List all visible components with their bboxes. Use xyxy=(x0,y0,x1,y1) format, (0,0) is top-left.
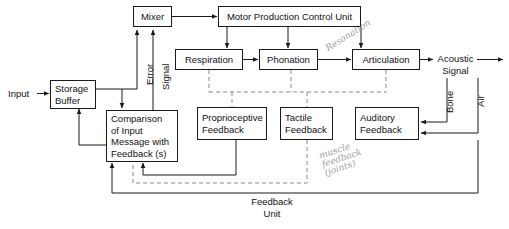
node-phonation[interactable]: Phonation xyxy=(259,49,318,70)
label-error: Error xyxy=(144,64,155,85)
node-storage-buffer[interactable]: Storage Buffer xyxy=(50,80,96,109)
label-feedback-unit: Feedback Unit xyxy=(246,196,298,219)
edge-storage-to-mixer xyxy=(96,30,137,89)
node-articulation-label: Articulation xyxy=(363,54,410,66)
node-mixer[interactable]: Mixer xyxy=(133,6,172,27)
edge-comparison-to-storage xyxy=(79,109,106,145)
label-bone: Bone xyxy=(444,91,455,113)
label-air: Air xyxy=(475,95,486,107)
node-comparison-label: Comparison of Input Message with Feedbac… xyxy=(111,113,169,159)
node-motor-production-control-unit-label: Motor Production Control Unit xyxy=(227,11,352,23)
node-storage-buffer-label: Storage Buffer xyxy=(55,83,88,106)
diagram-canvas: Mixer Motor Production Control Unit Resp… xyxy=(0,0,509,229)
label-acoustic-signal: Acoustic Signal xyxy=(433,53,478,76)
node-respiration-label: Respiration xyxy=(185,54,233,66)
node-mixer-label: Mixer xyxy=(141,11,164,23)
node-tactile-feedback[interactable]: Tactile Feedback xyxy=(280,107,333,140)
node-tactile-feedback-label: Tactile Feedback xyxy=(285,112,327,135)
label-signal: Signal xyxy=(160,64,171,90)
node-phonation-label: Phonation xyxy=(267,54,310,66)
node-motor-production-control-unit[interactable]: Motor Production Control Unit xyxy=(218,6,361,27)
node-articulation[interactable]: Articulation xyxy=(352,49,420,70)
node-proprioceptive-feedback[interactable]: Proprioceptive Feedback xyxy=(197,107,267,140)
node-auditory-feedback[interactable]: Auditory Feedback xyxy=(355,107,419,140)
node-comparison-of-input-message[interactable]: Comparison of Input Message with Feedbac… xyxy=(106,110,178,162)
node-proprioceptive-feedback-label: Proprioceptive Feedback xyxy=(202,112,263,135)
label-input: Input xyxy=(8,88,29,100)
node-respiration[interactable]: Respiration xyxy=(175,49,243,70)
node-auditory-feedback-label: Auditory Feedback xyxy=(360,112,402,135)
